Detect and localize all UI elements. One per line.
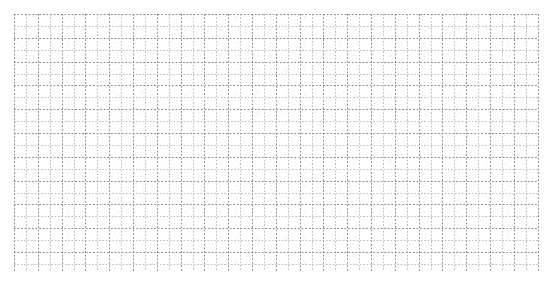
grid-vline <box>383 14 384 271</box>
scanned-page: —— —— — ——— —— — — —— — — <box>0 0 558 286</box>
grid-hline <box>14 240 538 241</box>
grid-hline <box>14 228 538 229</box>
grid-vline <box>323 14 324 271</box>
grid-hline <box>14 216 538 217</box>
grid-vline <box>74 14 75 271</box>
grid-vline <box>145 14 146 271</box>
grid-vline <box>359 14 360 271</box>
grid-vline <box>407 14 408 271</box>
grid-vline <box>50 14 51 271</box>
grid-vline <box>193 14 194 271</box>
grid-hline <box>14 133 538 134</box>
grid-vline <box>478 14 479 271</box>
grid-vline <box>216 14 217 271</box>
grid-vline <box>252 14 253 271</box>
grid-vline <box>371 14 372 271</box>
grid-vline <box>133 14 134 271</box>
grid-vline <box>442 14 443 271</box>
grid-vline <box>181 14 182 271</box>
grid-hline <box>14 14 538 15</box>
grid-hline <box>14 181 538 182</box>
grid-hline <box>14 145 538 146</box>
grid-vline <box>97 14 98 271</box>
grid-vline <box>514 14 515 271</box>
grid-vline <box>228 14 229 271</box>
grid-vline <box>526 14 527 271</box>
grid-vline <box>26 14 27 271</box>
grid-vline <box>288 14 289 271</box>
grid-vline <box>335 14 336 271</box>
grid-vline <box>85 14 86 271</box>
grid-vline <box>431 14 432 271</box>
grid-vline <box>490 14 491 271</box>
grid-vline <box>538 14 539 271</box>
grid-hline <box>14 97 538 98</box>
grid-vline <box>157 14 158 271</box>
grid-vline <box>300 14 301 271</box>
grid-hline <box>14 169 538 170</box>
grid-hline <box>14 157 538 158</box>
grid-vline <box>14 14 15 271</box>
grid-hline <box>14 74 538 75</box>
grid-hline <box>14 204 538 205</box>
grid-vline <box>502 14 503 271</box>
grid-vline <box>169 14 170 271</box>
grid-vline <box>240 14 241 271</box>
grid-hline <box>14 26 538 27</box>
grid-vline <box>419 14 420 271</box>
grid-vline <box>264 14 265 271</box>
grid-sheet <box>14 14 538 271</box>
grid-hline <box>14 109 538 110</box>
grid-vline <box>395 14 396 271</box>
grid-vline <box>204 14 205 271</box>
grid-vline <box>454 14 455 271</box>
grid-hline <box>14 50 538 51</box>
grid-hline <box>14 121 538 122</box>
grid-hline <box>14 38 538 39</box>
grid-vline <box>109 14 110 271</box>
grid-vline <box>312 14 313 271</box>
grid-hline <box>14 193 538 194</box>
grid-hline <box>14 264 538 265</box>
grid-vline <box>121 14 122 271</box>
grid-vline <box>466 14 467 271</box>
grid-vline <box>347 14 348 271</box>
header-strip: —— —— — ——— —— — — —— — — <box>0 0 558 7</box>
grid-vline <box>62 14 63 271</box>
grid-vline <box>276 14 277 271</box>
grid-hline <box>14 252 538 253</box>
grid-vline <box>38 14 39 271</box>
grid-hline <box>14 62 538 63</box>
grid-hline <box>14 85 538 86</box>
cut-off-header-text: —— —— — ——— —— — — —— — — <box>27 0 258 4</box>
